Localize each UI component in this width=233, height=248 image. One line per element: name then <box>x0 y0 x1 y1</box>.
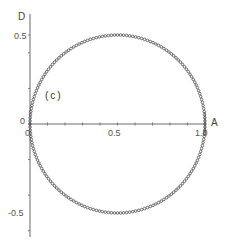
data-point <box>125 34 128 37</box>
data-point <box>75 201 78 204</box>
data-point <box>78 43 81 46</box>
data-point <box>35 89 38 92</box>
data-point <box>42 76 45 79</box>
data-point <box>202 141 205 144</box>
data-point <box>199 95 202 98</box>
data-point <box>33 95 36 98</box>
data-point <box>157 44 160 47</box>
data-point <box>168 51 171 54</box>
data-point <box>53 61 56 64</box>
data-point <box>33 150 36 153</box>
data-point <box>55 187 58 190</box>
data-point <box>125 211 128 214</box>
data-point <box>165 196 168 199</box>
data-point <box>134 36 137 39</box>
data-point <box>198 153 201 156</box>
data-point <box>113 212 116 215</box>
data-point <box>163 198 166 201</box>
x-tick-label-mid: 0.5 <box>108 128 121 138</box>
data-point <box>152 204 155 207</box>
data-point <box>98 210 101 213</box>
data-point <box>187 175 190 178</box>
data-point <box>65 51 68 54</box>
data-point <box>72 46 75 49</box>
data-point <box>51 182 54 185</box>
data-point <box>183 180 186 183</box>
data-point <box>175 57 178 60</box>
data-point <box>201 144 204 147</box>
data-point <box>67 196 70 199</box>
data-point <box>31 141 34 144</box>
data-point <box>62 193 65 196</box>
data-point <box>101 35 104 38</box>
chart: D A 0.5 0 -0.5 0 0.5 1.0 (c) <box>0 0 233 248</box>
data-point <box>193 164 196 167</box>
data-point <box>55 59 58 62</box>
data-point <box>200 147 203 150</box>
data-point <box>177 187 180 190</box>
data-point <box>140 208 143 211</box>
data-point <box>44 172 47 175</box>
data-point <box>196 159 199 162</box>
data-point <box>195 162 198 165</box>
data-point <box>40 167 43 170</box>
data-point <box>67 49 70 52</box>
data-point <box>60 55 63 58</box>
data-point <box>183 65 186 68</box>
data-point <box>143 207 146 210</box>
data-point <box>163 47 166 50</box>
data-point <box>31 101 34 104</box>
data-point <box>104 35 107 38</box>
data-point <box>146 206 149 209</box>
data-point <box>86 39 89 42</box>
data-point <box>72 200 75 203</box>
data-point <box>170 53 173 56</box>
data-point <box>168 195 171 198</box>
data-point <box>98 36 101 39</box>
data-point <box>92 208 95 211</box>
data-point <box>149 40 152 43</box>
data-point <box>116 212 119 215</box>
data-point <box>89 207 92 210</box>
data-point <box>81 204 84 207</box>
data-point <box>198 92 201 95</box>
data-point <box>119 34 122 37</box>
data-point <box>40 78 43 81</box>
data-point <box>65 195 68 198</box>
data-point <box>190 76 193 79</box>
data-point <box>122 34 125 37</box>
data-point <box>172 191 175 194</box>
data-point <box>190 170 193 173</box>
data-point <box>134 210 137 213</box>
data-point <box>197 156 200 159</box>
data-point <box>110 211 113 214</box>
data-point <box>32 98 35 101</box>
data-point <box>95 209 98 212</box>
y-tick-label-bottom: -0.5 <box>8 208 24 218</box>
data-point <box>45 175 48 178</box>
data-point <box>202 138 205 141</box>
y-tick-label-top: 0.5 <box>14 31 27 41</box>
data-point <box>193 81 196 84</box>
y-tick-label-zero: 0 <box>20 116 25 126</box>
data-point <box>140 37 143 40</box>
data-point <box>202 107 205 110</box>
data-point <box>47 68 50 71</box>
data-point <box>155 43 158 46</box>
data-point <box>179 61 182 64</box>
data-point <box>128 35 131 38</box>
data-point <box>89 38 92 41</box>
data-point <box>107 211 110 214</box>
data-point <box>131 210 134 213</box>
data-point <box>137 36 140 39</box>
data-point <box>172 55 175 58</box>
data-point <box>62 53 65 56</box>
data-point <box>160 200 163 203</box>
data-point <box>199 150 202 153</box>
data-point <box>104 211 107 214</box>
data-point <box>149 205 152 208</box>
data-point <box>45 70 48 73</box>
data-point <box>70 198 73 201</box>
data-point <box>200 98 203 101</box>
data-point <box>31 104 34 107</box>
